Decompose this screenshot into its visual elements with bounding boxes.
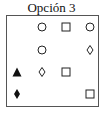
circle-outline-icon	[37, 45, 47, 55]
circle-outline-icon	[85, 22, 95, 32]
diamond-outline-icon	[85, 45, 95, 55]
square-outline-icon	[61, 67, 71, 77]
diamond-outline-icon	[37, 67, 47, 77]
circle-outline-icon	[37, 22, 47, 32]
option-title: Opción 3	[0, 0, 103, 15]
square-outline-icon	[85, 89, 95, 99]
triangle-filled-icon	[12, 67, 22, 77]
diamond-filled-icon	[12, 89, 22, 99]
square-outline-icon	[61, 22, 71, 32]
